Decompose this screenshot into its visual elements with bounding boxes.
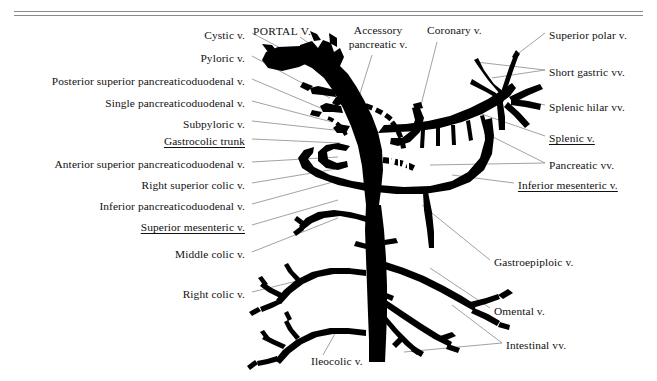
ileocolic-twig-3 [257, 356, 279, 366]
ileocolic-twig-6 [284, 311, 292, 321]
short-gastric-vein-1 [474, 58, 504, 94]
splenic-hilar-branch-2 [511, 99, 541, 110]
label-superior-mesenteric-vein: Superior mesenteric v. [141, 221, 245, 234]
label-gastroepiploic-vein: Gastroepiploic v. [494, 256, 573, 269]
short-gastric-vein-2 [470, 79, 498, 99]
smv-stub-b [354, 241, 367, 249]
label-splenic-hilar-veins: Splenic hilar vv. [549, 101, 625, 114]
label-ileocolic-vein: Ileocolic v. [311, 355, 363, 368]
label-right-superior-colic-vein: Right superior colic v. [142, 179, 245, 192]
pancreatic-vein-2 [451, 125, 456, 145]
pancreatic-vein-1 [436, 128, 440, 146]
label-right-colic-vein: Right colic v. [183, 288, 245, 301]
pancreatic-vein-3 [466, 120, 473, 141]
ileocolic-twig-4 [260, 330, 270, 340]
right-colic-arc-twig-3 [284, 263, 300, 281]
label-accessory-pancreatic-vein: Accessory pancreatic v. [332, 24, 424, 51]
splenic-vein [378, 83, 516, 133]
label-coronary-vein: Coronary v. [427, 24, 482, 37]
smv-stub-a [384, 238, 398, 245]
superior-mesenteric-vein [365, 205, 387, 362]
label-short-gastric-veins: Short gastric vv. [549, 66, 625, 79]
label-inferior-mesenteric-vein: Inferior mesenteric v. [518, 179, 618, 192]
label-intestinal-veins: Intestinal vv. [506, 339, 566, 352]
small-stub-left-b [310, 110, 322, 117]
splenic-hilar-branch-4 [497, 103, 505, 130]
figure-canvas: Cystic v. Pyloric v. Posterior superior … [0, 0, 657, 381]
label-posterior-superior-pancreaticoduodenal-vein: Posterior superior pancreaticoduodenal v… [52, 75, 245, 88]
gastrocolic-trunk-loop [318, 143, 350, 170]
label-single-pancreaticoduodenal-vein: Single pancreaticoduodenal v. [105, 97, 245, 110]
intestinal-twig-b [446, 344, 460, 353]
right-colic-twig-b [498, 322, 510, 330]
label-superior-polar-vein: Superior polar v. [549, 29, 627, 42]
label-splenic-vein: Splenic v. [549, 132, 595, 145]
ileocolic-twig-5 [247, 360, 258, 370]
label-cystic-vein: Cystic v. [204, 29, 245, 42]
label-gastrocolic-trunk: Gastrocolic trunk [164, 135, 245, 148]
portal-head-spike-a [310, 31, 321, 41]
gastroepiploic-vein [423, 192, 434, 248]
label-middle-colic-vein: Middle colic v. [175, 248, 245, 261]
ileocolic-twig-1 [284, 320, 300, 340]
label-inferior-pancreaticoduodenal-vein: Inferior pancreaticoduodenal v. [99, 200, 245, 213]
middle-colic-vein [299, 210, 366, 230]
label-pancreatic-veins: Pancreatic vv. [549, 159, 614, 172]
right-colic-arc-twig-5 [249, 307, 261, 316]
right-colic-twig-a [498, 289, 513, 299]
label-portal-vein: PORTAL V. [253, 25, 311, 38]
label-omental-vein: Omental v. [494, 305, 545, 318]
label-pyloric-vein: Pyloric v. [200, 52, 245, 65]
right-colic-arc-twig-4 [258, 276, 268, 286]
pancreatic-vein-5 [420, 130, 425, 148]
label-anterior-superior-pancreaticoduodenal-vein: Anterior superior pancreaticoduodenal v. [55, 158, 246, 171]
intestinal-vein-1 [384, 300, 452, 347]
right-colic-arc-twig-2 [260, 299, 282, 312]
right-colic-arcade [384, 262, 476, 311]
label-subpyloric-vein: Subpyloric v. [183, 118, 245, 131]
